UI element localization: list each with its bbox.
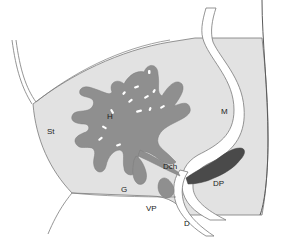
- gut-lower-boundary: [48, 193, 72, 234]
- label-hepatic: H: [107, 113, 113, 121]
- embryo-pancreas-liver-diagram: St H M Dch G DP VP D: [0, 0, 300, 241]
- label-mesentery: M: [221, 108, 228, 116]
- label-stomach: St: [47, 128, 55, 136]
- body-wall-outline: [12, 40, 36, 104]
- label-duodenum: D: [184, 220, 190, 228]
- label-dorsal-pancreas: DP: [213, 180, 224, 188]
- label-ductus-choledochus: Dch: [163, 163, 177, 171]
- label-gallbladder: G: [121, 186, 127, 194]
- label-ventral-pancreas: VP: [146, 205, 157, 213]
